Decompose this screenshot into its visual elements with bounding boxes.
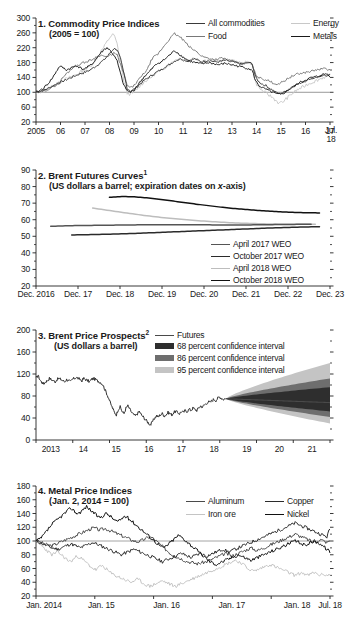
legend-label: Food	[208, 31, 227, 41]
legend-item-october-2017-weo[interactable]: October 2017 WEO	[211, 251, 304, 261]
y-axis-tick-label: 160	[0, 495, 30, 505]
legend-label: October 2018 WEO	[233, 275, 304, 285]
x-axis-tick-label: Jan. 15	[77, 600, 125, 610]
legend-swatch-line-icon	[211, 268, 230, 269]
legend-swatch-line-icon	[211, 256, 230, 257]
y-axis-tick-label: 180	[0, 58, 30, 68]
legend-swatch-line-icon	[186, 23, 205, 24]
panel1-title: 1. Commodity Price Indices	[38, 18, 159, 29]
y-axis-tick-label: 60	[0, 215, 30, 225]
legend-item-95-percent-ci[interactable]: 95 percent confidence interval	[155, 365, 284, 375]
panel2-title: 2. Brent Futures Curves1	[38, 170, 147, 181]
panel-brent-futures-curves: 2. Brent Futures Curves1 (US dollars a b…	[0, 160, 353, 305]
panel3-subtitle: (US dollars a barrel)	[54, 341, 137, 352]
y-axis-tick-label: 100	[0, 536, 30, 546]
panel4-title: 4. Metal Price Indices	[38, 485, 132, 496]
x-axis-tick-label: Jan. 16	[143, 600, 191, 610]
y-axis-tick-label: 100	[0, 87, 30, 97]
legend-item-energy[interactable]: Energy	[291, 18, 339, 28]
x-axis-tick-label-last: Jul.18	[312, 126, 350, 144]
x-axis-tick-label: Dec. 23	[303, 289, 353, 299]
legend-item-nickel[interactable]: Nickel	[265, 509, 309, 519]
legend-swatch-band-icon	[155, 367, 174, 373]
legend-item-all-commodities[interactable]: All commodities	[186, 18, 265, 28]
legend-swatch-line-icon	[291, 23, 310, 24]
legend-label: Iron ore	[208, 509, 236, 519]
legend-swatch-band-icon	[155, 343, 174, 349]
y-axis-tick-label: 90	[0, 165, 30, 175]
y-axis-tick-label: 220	[0, 43, 30, 53]
legend-item-86-percent-ci[interactable]: 86 percent confidence interval	[155, 353, 284, 363]
y-axis-tick-label: 140	[0, 72, 30, 82]
panel-brent-price-prospects: 3. Brent Price Prospects2 (US dollars a …	[0, 322, 353, 472]
legend-item-april-2018-weo[interactable]: April 2018 WEO	[211, 263, 291, 273]
legend-label: Aluminum	[208, 496, 244, 506]
legend-label: Nickel	[287, 509, 309, 519]
panel2-subtitle-a: (US dollars a barrel; expiration dates o…	[49, 181, 218, 191]
panel2-footnote-marker: 1	[143, 169, 147, 176]
x-axis-tick-label: Jan. 2014	[20, 600, 68, 610]
y-axis-tick-label: 120	[0, 369, 30, 379]
legend-swatch-line-icon	[186, 36, 205, 37]
legend-item-april-2017-weo[interactable]: April 2017 WEO	[211, 239, 291, 249]
y-axis-tick-label: 30	[0, 264, 30, 274]
legend-item-copper[interactable]: Copper	[265, 496, 314, 506]
y-axis-tick-label: 60	[0, 102, 30, 112]
panel2-title-text: 2. Brent Futures Curves	[38, 170, 143, 181]
legend-label: Metals	[313, 31, 337, 41]
y-axis-tick-label: 300	[0, 13, 30, 23]
legend-label: 95 percent confidence interval	[177, 365, 284, 375]
legend-item-iron-ore[interactable]: Iron ore	[186, 509, 236, 519]
legend-label: Energy	[313, 18, 339, 28]
legend-item-october-2018-weo[interactable]: October 2018 WEO	[211, 275, 304, 285]
legend-label: All commodities	[208, 18, 265, 28]
y-axis-tick-label: 140	[0, 509, 30, 519]
x-axis-tick-label: Jul. 18	[306, 600, 353, 610]
x-axis-tick-label: Jan. 17	[208, 600, 256, 610]
x-last-line2: 18	[326, 134, 335, 144]
y-axis-tick-label: 0	[0, 435, 30, 445]
legend-label: 86 percent confidence interval	[177, 353, 284, 363]
legend-item-68-percent-ci[interactable]: 68 percent confidence interval	[155, 341, 284, 351]
y-axis-tick-label: 80	[0, 182, 30, 192]
panel1-subtitle: (2005 = 100)	[49, 29, 99, 40]
legend-swatch-line-icon	[291, 36, 310, 37]
y-axis-tick-label: 50	[0, 231, 30, 241]
y-axis-tick-label: 160	[0, 347, 30, 357]
legend-item-metals[interactable]: Metals	[291, 31, 337, 41]
legend-item-futures[interactable]: Futures	[155, 330, 204, 340]
legend-swatch-line-icon	[265, 501, 284, 502]
commodity-price-figure: 1. Commodity Price Indices (2005 = 100) …	[0, 0, 353, 624]
panel3-footnote-marker: 2	[145, 329, 149, 336]
panel4-subtitle: (Jan. 2, 2014 = 100)	[49, 496, 129, 507]
legend-swatch-line-icon	[265, 514, 284, 515]
legend-label: Futures	[177, 330, 204, 340]
panel3-title: 3. Brent Price Prospects2	[38, 330, 149, 341]
y-axis-tick-label: 60	[0, 564, 30, 574]
legend-item-food[interactable]: Food	[186, 31, 227, 41]
legend-label: 68 percent confidence interval	[177, 341, 284, 351]
panel2-subtitle-b: -axis)	[223, 181, 246, 191]
panel-commodity-price-indices: 1. Commodity Price Indices (2005 = 100) …	[0, 4, 353, 154]
y-axis-tick-label: 80	[0, 391, 30, 401]
y-axis-tick-label: 40	[0, 577, 30, 587]
legend-swatch-line-icon	[186, 501, 205, 502]
panel3-title-text: 3. Brent Price Prospects	[38, 330, 145, 341]
legend-label: April 2017 WEO	[233, 239, 291, 249]
legend-swatch-line-icon	[211, 280, 230, 281]
panel-metal-price-indices: 4. Metal Price Indices (Jan. 2, 2014 = 1…	[0, 478, 353, 624]
legend-swatch-line-icon	[155, 335, 174, 336]
legend-label: Copper	[287, 496, 314, 506]
x-axis-tick-label: 21	[288, 444, 336, 454]
legend-item-aluminum[interactable]: Aluminum	[186, 496, 244, 506]
y-axis-tick-label: 80	[0, 550, 30, 560]
panel2-subtitle: (US dollars a barrel; expiration dates o…	[49, 181, 246, 192]
y-axis-tick-label: 70	[0, 198, 30, 208]
legend-swatch-line-icon	[186, 514, 205, 515]
y-axis-tick-label: 260	[0, 28, 30, 38]
y-axis-tick-label: 120	[0, 522, 30, 532]
legend-swatch-band-icon	[155, 355, 174, 361]
legend-label: April 2018 WEO	[233, 263, 291, 273]
legend-swatch-line-icon	[211, 244, 230, 245]
legend-label: October 2017 WEO	[233, 251, 304, 261]
